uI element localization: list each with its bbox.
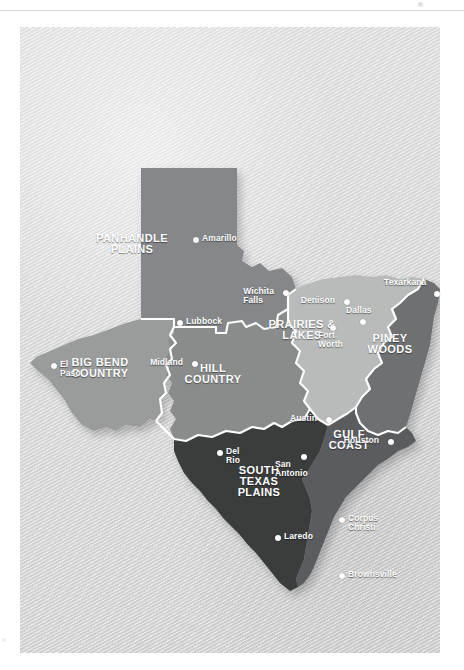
- region-panhandle-plains[interactable]: [141, 168, 296, 333]
- texas-regions-group: [30, 168, 440, 591]
- texas-map-svg: [20, 27, 440, 653]
- scan-artifact-speck-lower: [2, 638, 6, 642]
- region-big-bend-country[interactable]: [30, 319, 176, 431]
- scan-artifact-speck: [418, 2, 423, 7]
- map-panel: PANHANDLE PLAINS BIG BEND COUNTRY HILL C…: [20, 27, 440, 653]
- top-divider-rule: [0, 10, 464, 11]
- texas-regions-map: PANHANDLE PLAINS BIG BEND COUNTRY HILL C…: [20, 27, 440, 653]
- region-hill-country[interactable]: [166, 309, 310, 441]
- page-root: PANHANDLE PLAINS BIG BEND COUNTRY HILL C…: [0, 0, 464, 670]
